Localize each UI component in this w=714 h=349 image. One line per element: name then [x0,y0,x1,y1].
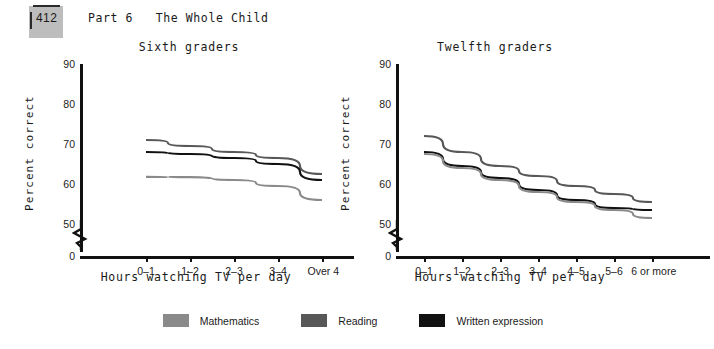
legend-label: Written expression [456,315,543,327]
legend-item: Mathematics [163,314,260,327]
color-swatch-icon [301,314,327,327]
page-number-rule [33,5,60,7]
x-tick [576,256,578,262]
x-tick [652,256,654,262]
chart-title: Sixth graders [22,40,334,54]
x-tick [538,256,540,262]
plot-area: 05060708090 0–11–22–33–44–55–66 or more [376,60,690,302]
legend-item: Written expression [419,314,543,327]
series-line-written-expression [424,152,652,210]
x-tick [462,256,464,262]
chart-title: Twelfth graders [338,40,690,54]
x-tick [234,256,236,262]
chart-legend: MathematicsReadingWritten expression [0,314,706,327]
running-head: Part 6 The Whole Child [88,11,269,25]
x-axis-title: Hours watching TV per day [22,270,334,284]
plot-area: 05060708090 0–11–22–33–4Over 4 [60,60,334,302]
page-number: 412 [36,11,57,25]
series-line-mathematics [146,177,322,200]
legend-label: Reading [338,315,377,327]
x-tick [500,256,502,262]
x-tick [424,256,426,262]
x-tick [614,256,616,262]
x-tick [322,256,324,262]
x-tick [278,256,280,262]
chart-twelfth-graders: Twelfth graders Percent correct 05060708… [338,40,690,302]
series-lines [60,60,374,290]
series-line-written-expression [146,152,322,180]
legend-label: Mathematics [200,315,260,327]
page-number-bar [30,12,32,29]
x-axis-title: Hours watching TV per day [338,270,690,284]
y-axis-label: Percent correct [20,78,38,228]
series-lines [376,60,714,290]
color-swatch-icon [419,314,445,327]
legend-item: Reading [301,314,377,327]
x-tick [190,256,192,262]
x-tick [146,256,148,262]
chart-sixth-graders: Sixth graders Percent correct 0506070809… [22,40,334,302]
color-swatch-icon [163,314,189,327]
y-axis-label: Percent correct [336,78,354,228]
